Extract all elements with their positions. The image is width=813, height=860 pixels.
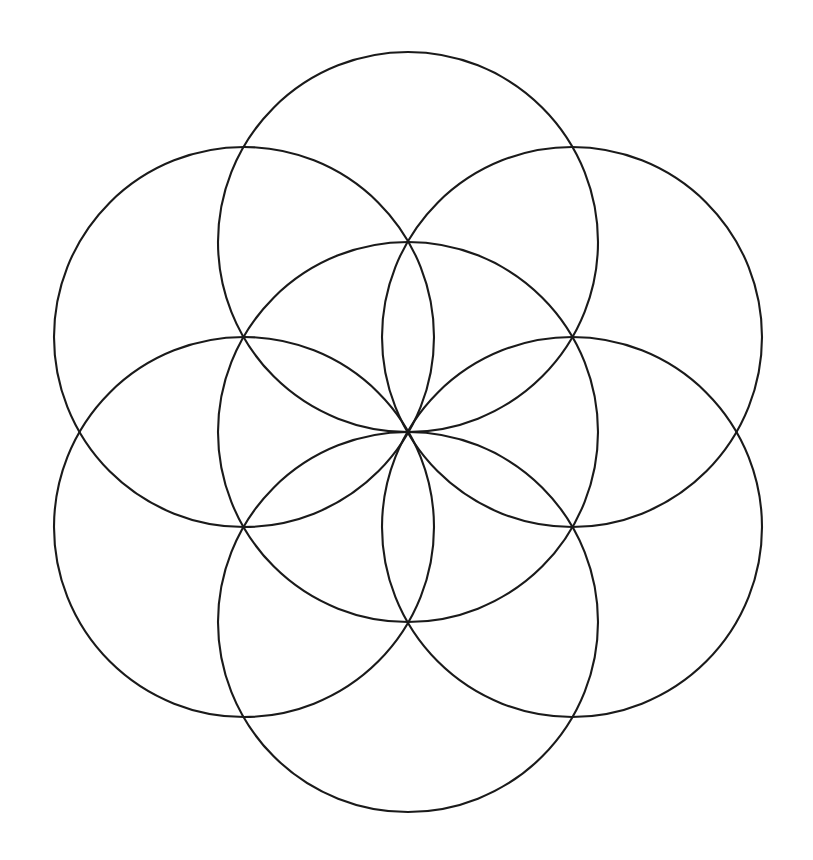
drawing-canvas <box>0 0 813 860</box>
seed-of-life-figure <box>0 0 813 860</box>
